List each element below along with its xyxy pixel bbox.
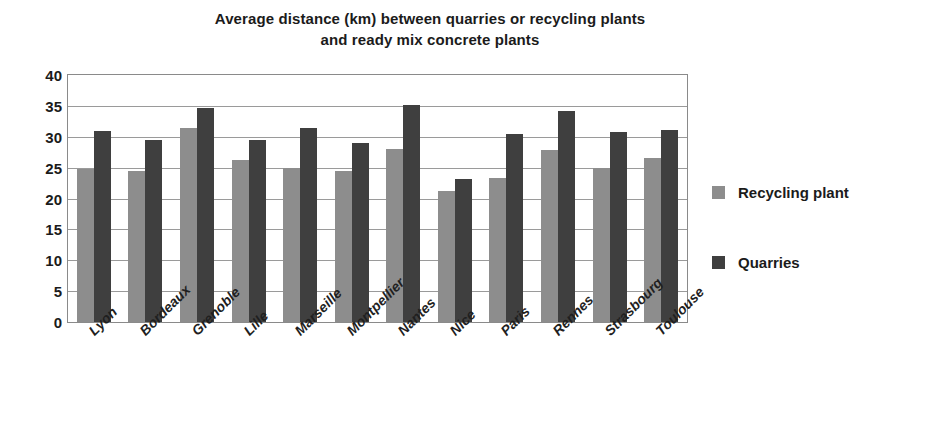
bar-group — [120, 75, 172, 322]
y-tick-label: 25 — [45, 160, 62, 175]
chart-title: Average distance (km) between quarries o… — [110, 8, 750, 50]
bar-quarries[interactable] — [300, 128, 317, 322]
bar-quarries[interactable] — [249, 140, 266, 322]
bar-quarries[interactable] — [197, 108, 214, 322]
bar-group — [584, 75, 636, 322]
y-tick-label: 30 — [45, 129, 62, 144]
bar-group — [68, 75, 120, 322]
chart-container: Average distance (km) between quarries o… — [0, 0, 925, 438]
legend-label: Quarries — [738, 255, 800, 270]
bar-recycling-plant[interactable] — [489, 178, 506, 322]
bar-quarries[interactable] — [455, 179, 472, 322]
y-tick-label: 35 — [45, 98, 62, 113]
bar-quarries[interactable] — [403, 105, 420, 322]
y-tick-label: 40 — [45, 68, 62, 83]
bar-recycling-plant[interactable] — [438, 191, 455, 322]
bar-quarries[interactable] — [94, 131, 111, 322]
y-tick-label: 20 — [45, 191, 62, 206]
y-tick-label: 0 — [54, 315, 62, 330]
bar-recycling-plant[interactable] — [283, 168, 300, 322]
bar-quarries[interactable] — [352, 143, 369, 322]
legend-label: Recycling plant — [738, 185, 849, 200]
bar-quarries[interactable] — [610, 132, 627, 322]
bar-recycling-plant[interactable] — [128, 171, 145, 322]
bar-group — [274, 75, 326, 322]
legend-item[interactable]: Recycling plant — [712, 185, 912, 200]
bar-recycling-plant[interactable] — [77, 169, 94, 322]
y-tick-label: 15 — [45, 222, 62, 237]
y-tick-label: 5 — [54, 284, 62, 299]
y-axis: 4035302520151050 — [20, 74, 62, 323]
bar-recycling-plant[interactable] — [593, 168, 610, 322]
bar-group — [532, 75, 584, 322]
bar-quarries[interactable] — [661, 130, 678, 322]
bar-recycling-plant[interactable] — [541, 150, 558, 322]
bar-group — [429, 75, 481, 322]
chart-title-line-2: and ready mix concrete plants — [110, 29, 750, 50]
legend-swatch-icon — [712, 186, 725, 199]
bar-group — [481, 75, 533, 322]
legend-swatch-icon — [712, 256, 725, 269]
x-axis: LyonBordeauxGrenobleLilleMarseilleMontpe… — [68, 324, 687, 432]
bars-layer — [68, 75, 687, 322]
y-tick-label: 10 — [45, 253, 62, 268]
chart-legend: Recycling plantQuarries — [712, 185, 912, 325]
bar-quarries[interactable] — [145, 140, 162, 322]
bar-quarries[interactable] — [506, 134, 523, 322]
chart-title-line-1: Average distance (km) between quarries o… — [110, 8, 750, 29]
bar-quarries[interactable] — [558, 111, 575, 322]
legend-item[interactable]: Quarries — [712, 255, 912, 270]
